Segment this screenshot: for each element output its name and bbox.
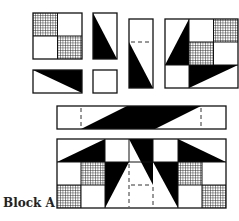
assembled-block <box>57 139 226 208</box>
sashing-strip-piece <box>57 106 226 129</box>
block-title: Block A <box>3 196 55 210</box>
flat-triangle-piece <box>33 70 82 93</box>
star-corner-piece <box>165 19 238 88</box>
block-a-diagram <box>0 0 239 221</box>
small-square-piece <box>93 70 117 93</box>
tall-dashed-piece <box>129 19 153 88</box>
four-patch-piece <box>33 13 82 59</box>
tall-triangle-piece <box>93 13 117 59</box>
